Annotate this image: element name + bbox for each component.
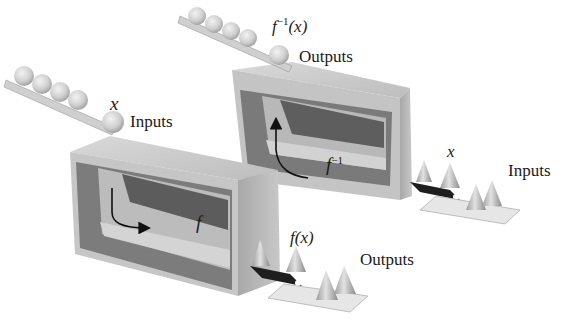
machine-label-f-inverse: f−1 <box>326 155 343 174</box>
function-machine-diagram: x Inputs f f(x) Outputs f−1(x) Outputs f… <box>0 0 567 324</box>
inputs-label: Inputs <box>130 113 173 130</box>
f-inverse-superscript: −1 <box>277 15 289 27</box>
inverse-inputs-label: Inputs <box>508 162 551 179</box>
function-input-chute <box>4 66 124 135</box>
output-symbol-fx: f(x) <box>290 229 314 246</box>
diagram-artwork <box>0 0 567 324</box>
f-inverse-label-superscript: −1 <box>331 154 343 166</box>
input-symbol-x: x <box>110 94 118 113</box>
output-symbol-f-inverse-x: f−1(x) <box>272 16 307 35</box>
f-inverse-argument: (x) <box>288 17 307 36</box>
machine-label-f: f <box>196 213 201 232</box>
outputs-label: Outputs <box>360 251 414 268</box>
inverse-input-conveyor <box>410 160 520 224</box>
inverse-input-symbol-x: x <box>447 143 455 160</box>
inverse-outputs-label: Outputs <box>299 48 353 65</box>
